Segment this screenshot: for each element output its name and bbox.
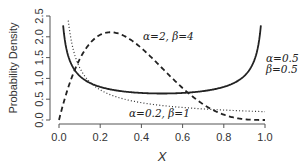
y-axis <box>46 16 50 120</box>
annotation-alpha2-beta4: α=2, β=4 <box>143 30 194 42</box>
annotation-alpha02-beta1: α=0.2, β=1 <box>129 107 190 119</box>
y-tick-label: 0.5 <box>33 92 45 107</box>
x-tick-label: 0.2 <box>93 131 108 143</box>
x-tick-label: 0.0 <box>51 131 66 143</box>
y-tick-label: 1.0 <box>33 71 45 86</box>
x-axis <box>59 124 265 128</box>
x-axis-title: X <box>157 149 168 164</box>
y-axis-title: Probability Density <box>7 22 19 114</box>
x-tick-label: 1.0 <box>257 131 272 143</box>
x-tick-label: 0.4 <box>134 131 149 143</box>
x-tick-labels: 0.00.20.40.60.81.0 <box>51 131 272 143</box>
x-tick-label: 0.6 <box>175 131 190 143</box>
beta-distribution-chart: 0.00.51.01.52.02.5 0.00.20.40.60.81.0 Pr… <box>0 0 305 166</box>
y-tick-label: 2.5 <box>33 8 45 23</box>
y-tick-label: 0.0 <box>33 112 45 127</box>
y-tick-label: 1.5 <box>33 50 45 65</box>
y-tick-label: 2.0 <box>33 29 45 44</box>
x-tick-label: 0.8 <box>216 131 231 143</box>
y-tick-labels: 0.00.51.01.52.02.5 <box>33 8 45 127</box>
annotation-beta05: β=0.5 <box>265 63 298 75</box>
